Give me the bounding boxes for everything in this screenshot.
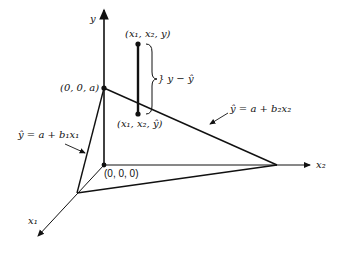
residual-label: } y − ŷ	[158, 74, 194, 84]
line-x2-equation: ŷ = a + b₂x₂	[230, 104, 291, 114]
point-observed	[135, 41, 140, 46]
x2-axis-label: x₂	[316, 160, 326, 170]
x1-axis	[38, 165, 104, 236]
observed-point-label: (x₁, x₂, y)	[125, 29, 170, 39]
point-intercept	[101, 85, 106, 90]
regression-plane-diagram: y x₂ x₁ (0, 0, a) (0, 0, 0) (x₁, x₂, y) …	[0, 0, 344, 253]
y-axis-label: y	[90, 14, 96, 24]
point-predicted	[135, 111, 140, 116]
residual-brace	[146, 44, 157, 114]
line-x1-equation: ŷ = a + b₁x₁	[18, 130, 79, 140]
line-x1	[77, 88, 104, 193]
diagram-lines	[0, 0, 344, 253]
leader-x2	[210, 113, 228, 124]
origin-label: (0, 0, 0)	[104, 169, 138, 179]
leader-x1	[65, 144, 85, 153]
intercept-label: (0, 0, a)	[60, 83, 99, 93]
x1-axis-label: x₁	[28, 216, 38, 226]
predicted-point-label: (x₁, x₂, ŷ)	[117, 119, 162, 129]
point-origin	[102, 163, 107, 168]
